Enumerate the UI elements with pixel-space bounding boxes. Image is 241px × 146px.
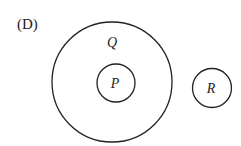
set-r-label: R (206, 81, 216, 96)
venn-diagram: (D) Q P R (0, 0, 241, 146)
set-p-label: P (110, 76, 120, 91)
set-q-label: Q (107, 35, 117, 50)
option-label: (D) (17, 16, 38, 33)
